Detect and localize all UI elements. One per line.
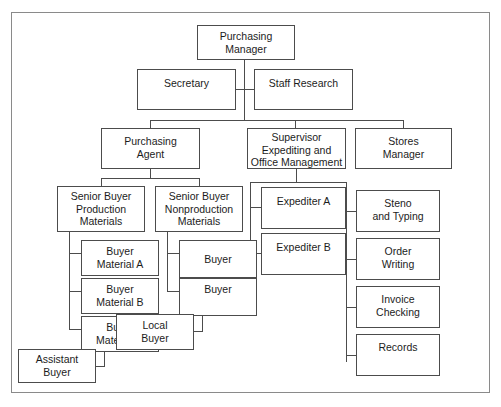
connector-rail-to-buyer-1 [167, 253, 179, 254]
connector-drop-supervisor [295, 120, 296, 128]
node-buyer-material-b[interactable]: Buyer Material B [81, 278, 159, 314]
connector-rail-to-records [346, 355, 356, 356]
connector-buyer-2-to-local-buyer [194, 331, 203, 332]
connector-rail-to-steno [346, 211, 356, 212]
node-supervisor-expediting[interactable]: Supervisor Expediting and Office Managem… [247, 128, 346, 169]
connector-rail-to-buyer-material-c [69, 329, 81, 330]
node-steno-and-typing[interactable]: Steno and Typing [356, 190, 440, 232]
node-senior-buyer-nonproduction[interactable]: Senior Buyer Nonproduction Materials [155, 186, 243, 232]
node-purchasing-agent[interactable]: Purchasing Agent [101, 128, 200, 169]
connector-bus-level3 [150, 120, 404, 121]
connector-rail-office-functions [346, 182, 347, 362]
node-staff-research[interactable]: Staff Research [254, 69, 353, 110]
node-stores-manager[interactable]: Stores Manager [355, 128, 452, 169]
connector-rail-to-buyer-material-b [69, 291, 81, 292]
connector-bus-senior-buyers [101, 178, 200, 179]
node-expediter-a[interactable]: Expediter A [261, 187, 346, 229]
node-buyer-2[interactable]: Buyer [179, 278, 257, 316]
connector-rail-to-expediter-a [250, 207, 261, 208]
connector-rail-production-buyers [69, 232, 70, 329]
node-buyer-1[interactable]: Buyer [179, 240, 257, 278]
node-order-writing[interactable]: Order Writing [356, 238, 440, 280]
node-records[interactable]: Records [356, 334, 440, 376]
connector-drop-purchasing-agent [150, 120, 151, 128]
connector-trunk-manager [244, 60, 245, 120]
node-secretary[interactable]: Secretary [137, 69, 236, 110]
node-local-buyer[interactable]: Local Buyer [116, 314, 194, 350]
connector-rail-to-invoice-checking [346, 307, 356, 308]
connector-rail-nonproduction-buyers [167, 232, 168, 292]
node-senior-buyer-production[interactable]: Senior Buyer Production Materials [57, 186, 145, 232]
connector-rail-to-buyer-2 [167, 291, 179, 292]
node-purchasing-manager[interactable]: Purchasing Manager [197, 25, 295, 60]
connector-buyer-c-to-assistant [96, 366, 105, 367]
connector-supervisor-stem [296, 169, 297, 182]
connector-drop-senior-buyer-nonproduction [199, 178, 200, 186]
node-invoice-checking[interactable]: Invoice Checking [356, 286, 440, 328]
connector-supervisor-bus [250, 182, 347, 183]
chart-canvas: Purchasing Manager Secretary Staff Resea… [0, 0, 501, 407]
connector-agent-stem [150, 169, 151, 178]
connector-rail-to-buyer-material-a [69, 253, 81, 254]
connector-manager-staff-research [244, 89, 254, 90]
connector-drop-stores-manager [403, 120, 404, 128]
node-buyer-material-a[interactable]: Buyer Material A [81, 240, 159, 276]
connector-drop-senior-buyer-production [101, 178, 102, 186]
connector-rail-to-order-writing [346, 259, 356, 260]
node-expediter-b[interactable]: Expediter B [261, 233, 346, 275]
node-assistant-buyer[interactable]: Assistant Buyer [18, 349, 96, 383]
